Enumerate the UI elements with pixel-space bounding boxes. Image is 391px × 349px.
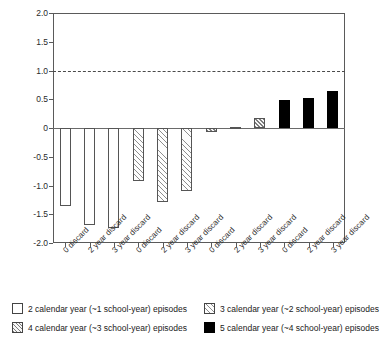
y-axis-tick-label: 1.5 (0, 38, 48, 47)
bar (108, 128, 119, 228)
y-axis-tick-label: 2.0 (0, 9, 48, 18)
bar (327, 91, 338, 128)
bar-chart: 2.01.51.00.50-0.5-1.0-1.5-2.0 0 discard2… (0, 0, 391, 349)
y-axis-tick-label: -0.5 (0, 153, 48, 162)
bar (279, 100, 290, 128)
legend-item[interactable]: 3 calendar year (~2 school-year) episode… (204, 303, 379, 314)
legend-label: 4 calendar year (~3 school-year) episode… (28, 323, 187, 333)
legend-swatch-icon (204, 303, 215, 314)
bar (60, 128, 71, 206)
legend-item[interactable]: 5 calendar year (~4 school-year) episode… (204, 322, 379, 333)
legend-swatch-icon (204, 322, 215, 333)
y-axis-tick-label: -1.0 (0, 182, 48, 191)
y-axis-tick-label: 0.5 (0, 95, 48, 104)
bar (84, 128, 95, 225)
bar (303, 98, 314, 128)
bar (157, 128, 168, 202)
y-axis-tick-label: -2.0 (0, 239, 48, 248)
y-axis-tick-label: 1.0 (0, 67, 48, 76)
bars-container (53, 13, 345, 243)
legend-item[interactable]: 2 calendar year (~1 school-year) episode… (12, 303, 187, 314)
bar (181, 128, 192, 191)
legend-label: 5 calendar year (~4 school-year) episode… (220, 323, 379, 333)
legend-label: 3 calendar year (~2 school-year) episode… (220, 304, 379, 314)
chart-legend: 2 calendar year (~1 school-year) episode… (8, 303, 383, 343)
legend-swatch-icon (12, 322, 23, 333)
legend-item[interactable]: 4 calendar year (~3 school-year) episode… (12, 322, 187, 333)
bar (254, 118, 265, 128)
legend-label: 2 calendar year (~1 school-year) episode… (28, 304, 187, 314)
bar (230, 127, 241, 129)
bar (206, 128, 217, 132)
bar (133, 128, 144, 181)
legend-swatch-icon (12, 303, 23, 314)
y-axis-tick-label: 0 (0, 124, 48, 133)
y-axis-tick-mark (49, 243, 53, 244)
y-axis-tick-label: -1.5 (0, 210, 48, 219)
